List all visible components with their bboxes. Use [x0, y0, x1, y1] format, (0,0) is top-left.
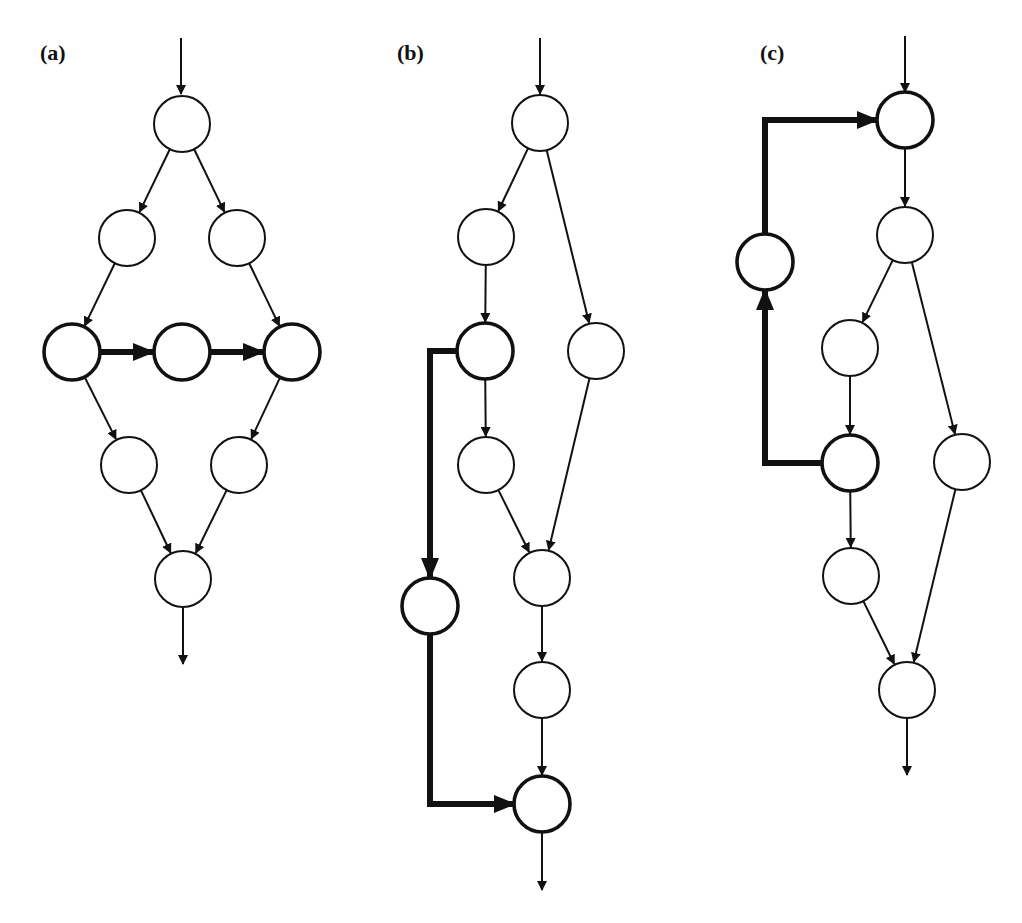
edge — [140, 149, 170, 212]
node — [822, 320, 878, 376]
node — [512, 95, 568, 151]
highlighted-path — [430, 351, 457, 578]
node — [823, 548, 879, 604]
edge — [251, 377, 280, 438]
node — [879, 662, 935, 718]
highlighted-node — [264, 324, 320, 380]
node — [458, 437, 514, 493]
edge — [914, 489, 956, 662]
node — [209, 210, 265, 266]
highlighted-path — [765, 290, 822, 463]
node — [101, 437, 157, 493]
node — [514, 662, 570, 718]
panel-label: (a) — [40, 40, 66, 65]
panel-b: (b) — [397, 38, 624, 890]
edge — [912, 262, 955, 434]
edge — [863, 260, 893, 322]
edge — [498, 490, 529, 552]
edge — [547, 150, 589, 323]
highlighted-node — [737, 234, 793, 290]
edge — [194, 149, 224, 212]
node — [458, 209, 514, 265]
node — [568, 323, 624, 379]
highlighted-node — [457, 323, 513, 379]
highlighted-node — [154, 324, 210, 380]
edge — [485, 265, 486, 322]
panel-label: (b) — [397, 40, 424, 65]
highlighted-node — [44, 324, 100, 380]
control-flow-figure: (a) (b) (c) — [0, 0, 1022, 923]
highlighted-path — [430, 634, 514, 804]
node — [154, 96, 210, 152]
highlighted-node — [402, 578, 458, 634]
node — [99, 210, 155, 266]
edge — [863, 601, 894, 664]
highlighted-node — [877, 92, 933, 148]
panel-c: (c) — [737, 36, 990, 775]
edge — [141, 490, 171, 552]
highlighted-node — [514, 776, 570, 832]
panel-label: (c) — [760, 40, 784, 65]
edge — [498, 148, 528, 210]
edge — [549, 378, 590, 550]
node — [514, 550, 570, 606]
edge — [85, 377, 116, 439]
highlighted-path — [765, 120, 877, 234]
node — [877, 207, 933, 263]
node — [211, 437, 267, 493]
edge — [196, 490, 227, 553]
edge — [485, 379, 486, 436]
edge — [85, 263, 115, 326]
node — [934, 434, 990, 490]
edge — [249, 263, 279, 326]
node — [155, 551, 211, 607]
highlighted-node — [822, 435, 878, 491]
panel-a: (a) — [40, 38, 320, 664]
